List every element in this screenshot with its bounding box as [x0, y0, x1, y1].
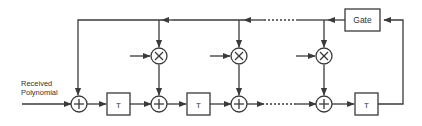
adder-4	[316, 96, 332, 112]
adder-2	[151, 96, 167, 112]
syndrome-decoder-diagram: Received Polynomial T T T Gate	[0, 0, 422, 126]
feedback-wire	[378, 20, 403, 104]
adder-3	[231, 96, 247, 112]
delay-label-1: T	[116, 101, 121, 110]
input-label-line1: Received	[21, 79, 52, 88]
wire	[78, 20, 162, 95]
input-label-line2: Polynomial	[21, 88, 58, 97]
gate-label: Gate	[353, 15, 372, 25]
delay-label-2: T	[196, 101, 201, 110]
multiplier-2	[231, 48, 247, 64]
multiplier-3	[316, 48, 332, 64]
multiplier-1	[151, 48, 167, 64]
delay-label-3: T	[364, 101, 369, 110]
adder-1	[71, 96, 87, 112]
